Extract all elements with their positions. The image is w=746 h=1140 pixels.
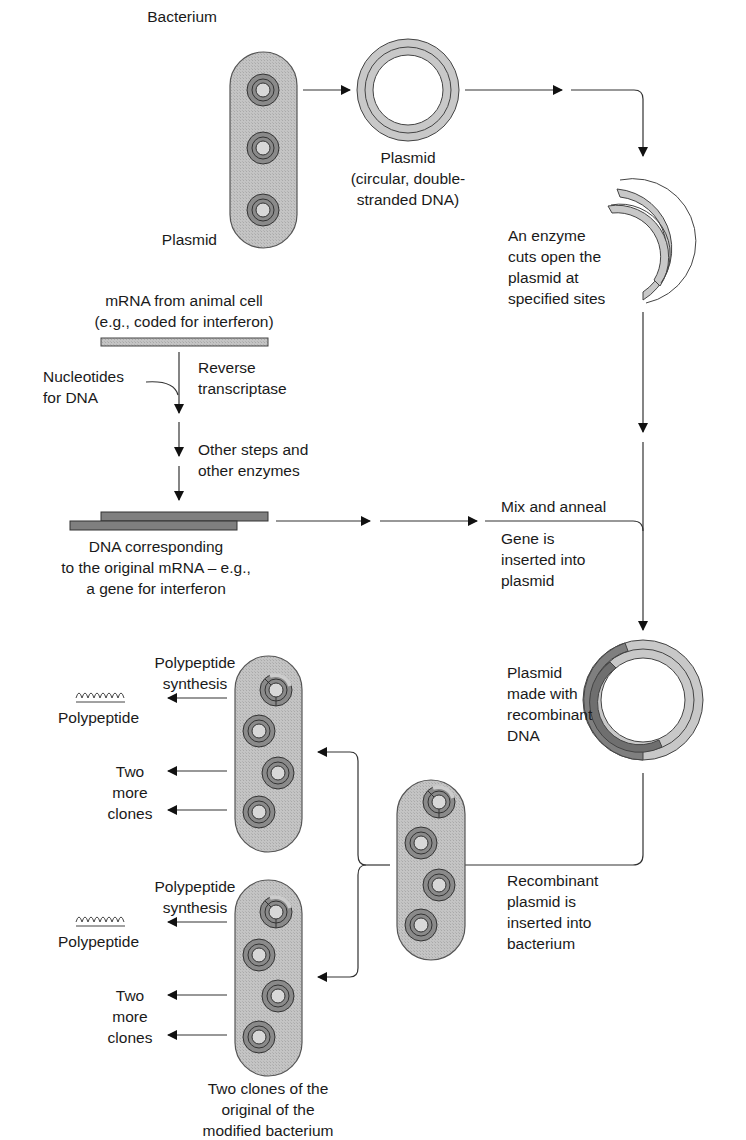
label-gene-inserted: Gene is inserted into plasmid bbox=[501, 528, 585, 591]
plasmid-ring-icon bbox=[405, 827, 437, 859]
mrna-strand bbox=[101, 338, 268, 346]
label-polypeptide-top: Polypeptide bbox=[58, 707, 139, 728]
plasmid-circular bbox=[357, 39, 459, 141]
plasmid-ring-icon bbox=[247, 194, 279, 226]
label-plasmid-in-cell: Plasmid bbox=[162, 229, 217, 250]
plasmid-recombinant bbox=[583, 640, 703, 760]
plasmid-cut-open bbox=[608, 179, 696, 303]
label-reverse-transcriptase: Reverse transcriptase bbox=[198, 357, 287, 399]
dna-double-strand bbox=[70, 512, 268, 530]
label-mix-anneal: Mix and anneal bbox=[501, 496, 606, 517]
plasmid-ring-icon bbox=[262, 980, 294, 1012]
label-recombinant-plasmid: Plasmid made with recombinant DNA bbox=[507, 662, 592, 746]
label-recombinant-inserted: Recombinant plasmid is inserted into bac… bbox=[507, 870, 598, 954]
label-bacterium: Bacterium bbox=[147, 6, 217, 27]
plasmid-ring-icon bbox=[423, 869, 455, 901]
label-other-steps: Other steps and other enzymes bbox=[198, 439, 308, 481]
plasmid-ring-icon bbox=[405, 909, 437, 941]
plasmid-ring-icon bbox=[243, 939, 275, 971]
label-two-clones-caption: Two clones of the original of the modifi… bbox=[188, 1078, 348, 1140]
polypeptide-coil-icon bbox=[76, 917, 125, 926]
plasmid-ring-icon bbox=[243, 796, 275, 828]
nucleotide-input-line bbox=[146, 382, 178, 395]
plasmid-ring-icon bbox=[262, 757, 294, 789]
label-more-clones-bottom: Two more clones bbox=[100, 985, 160, 1048]
label-mrna: mRNA from animal cell (e.g., coded for i… bbox=[84, 290, 284, 332]
recombinant-plasmid-icon bbox=[423, 786, 455, 818]
split-bracket bbox=[318, 752, 390, 977]
polypeptide-coil-icon bbox=[76, 693, 125, 702]
label-polypeptide-synthesis-bottom: Polypeptide synthesis bbox=[135, 876, 255, 918]
label-dna-corresponding: DNA corresponding to the original mRNA –… bbox=[56, 536, 256, 599]
plasmid-ring-icon bbox=[243, 715, 275, 747]
recombinant-plasmid-icon bbox=[260, 896, 292, 928]
bacterium-original bbox=[230, 52, 297, 248]
arrow-left-icon bbox=[442, 773, 643, 865]
plasmid-ring-icon bbox=[247, 74, 279, 106]
recombinant-plasmid-icon bbox=[260, 674, 292, 706]
label-more-clones-top: Two more clones bbox=[100, 761, 160, 824]
plasmid-ring-icon bbox=[247, 132, 279, 164]
label-plasmid-desc: Plasmid (circular, double- stranded DNA) bbox=[348, 147, 468, 210]
label-enzyme-cut: An enzyme cuts open the plasmid at speci… bbox=[508, 225, 605, 309]
bacterium-modified bbox=[397, 780, 465, 960]
label-polypeptide-synthesis-top: Polypeptide synthesis bbox=[135, 652, 255, 694]
label-polypeptide-bottom: Polypeptide bbox=[58, 931, 139, 952]
label-nucleotides: Nucleotides for DNA bbox=[43, 366, 124, 408]
arrow-down-icon bbox=[571, 90, 643, 156]
plasmid-ring-icon bbox=[243, 1021, 275, 1053]
